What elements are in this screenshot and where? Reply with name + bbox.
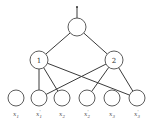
leaf-label-x2p: x2' — [84, 109, 90, 119]
leaf-node-x3 — [104, 90, 120, 106]
root-node-circle — [68, 18, 86, 36]
leaf-node-x2p — [79, 90, 95, 106]
leaf-label-x2: x2 — [59, 110, 65, 119]
leaf-node-x1 — [8, 90, 24, 106]
hidden-node-1: 1 — [30, 51, 48, 69]
edge-root-h2 — [84, 33, 108, 54]
leaf-node-x3p — [129, 90, 145, 106]
leaf-label-x1: x1 — [13, 110, 19, 119]
input-point — [76, 6, 78, 8]
network-diagram: 12x1x1'x2x2'x3x3' — [0, 0, 154, 124]
edge-root-h1 — [46, 33, 70, 54]
leaf-node-x2-circle — [54, 90, 70, 106]
edge-h2-x3p — [119, 68, 133, 91]
hidden-node-1-label: 1 — [37, 57, 41, 65]
edges-layer — [39, 7, 133, 95]
edge-h1-x2 — [44, 68, 58, 91]
edge-h2-x2p — [92, 67, 109, 91]
leaf-label-x3p: x3' — [134, 109, 140, 119]
nodes-layer: 12x1x1'x2x2'x3x3' — [8, 6, 145, 119]
leaf-node-x2 — [54, 90, 70, 106]
hidden-node-2: 2 — [105, 51, 123, 69]
leaf-label-x1p: x1' — [36, 109, 42, 119]
root-node — [68, 18, 86, 36]
leaf-node-x1p-circle — [31, 90, 47, 106]
leaf-node-x3-circle — [104, 90, 120, 106]
leaf-node-x3p-circle — [129, 90, 145, 106]
leaf-node-x2p-circle — [79, 90, 95, 106]
hidden-node-2-label: 2 — [112, 57, 116, 65]
leaf-node-x1-circle — [8, 90, 24, 106]
edge-h2-x1p — [46, 64, 106, 94]
leaf-node-x1p — [31, 90, 47, 106]
leaf-label-x3: x3 — [109, 110, 115, 119]
